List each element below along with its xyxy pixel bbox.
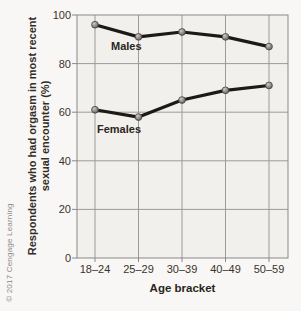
series-label-males: Males xyxy=(111,40,142,52)
x-tick-label: 18–24 xyxy=(80,263,111,275)
data-point-males-4 xyxy=(266,43,273,50)
figure-root: © 2017 Cengage Learning Respondents who … xyxy=(0,0,301,311)
x-tick-label: 30–39 xyxy=(167,263,198,275)
data-point-females-4 xyxy=(266,82,273,89)
chart-canvas: 02040608010018–2425–2930–3940–4950–59Mal… xyxy=(0,0,301,311)
x-axis-title: Age bracket xyxy=(77,282,288,294)
x-tick-label: 40–49 xyxy=(210,263,241,275)
data-point-males-2 xyxy=(179,29,186,36)
x-tick-label: 25–29 xyxy=(123,263,154,275)
y-tick-label: 100 xyxy=(53,9,71,21)
data-point-males-3 xyxy=(222,33,229,40)
y-tick-label: 60 xyxy=(59,106,71,118)
data-point-females-1 xyxy=(135,114,142,121)
data-point-females-3 xyxy=(222,87,229,94)
y-tick-label: 80 xyxy=(59,58,71,70)
y-tick-label: 20 xyxy=(59,203,71,215)
data-point-females-0 xyxy=(92,106,99,113)
y-tick-label: 40 xyxy=(59,155,71,167)
x-tick-label: 50–59 xyxy=(254,263,285,275)
data-point-females-2 xyxy=(179,97,186,104)
data-point-males-1 xyxy=(135,33,142,40)
data-point-males-0 xyxy=(92,21,99,28)
series-label-females: Females xyxy=(97,123,141,135)
y-tick-label: 0 xyxy=(65,252,71,264)
